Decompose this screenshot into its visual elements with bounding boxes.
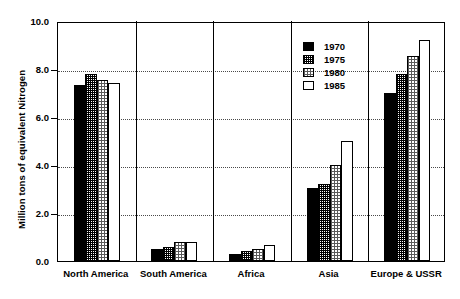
bar-africa-1985 [264, 245, 276, 261]
group-separator [213, 21, 214, 261]
y-tick-label: 0.0 [16, 257, 49, 267]
bar-asia-1975 [318, 184, 330, 261]
bar-europe-ussr-1970 [384, 93, 396, 261]
legend-label: 1980 [324, 68, 345, 78]
legend-swatch-1980 [303, 68, 314, 77]
y-tick-label: 8.0 [16, 65, 49, 75]
bar-south-america-1980 [174, 242, 186, 261]
bar-europe-ussr-1975 [396, 74, 408, 261]
y-tick-label: 2.0 [16, 209, 49, 219]
bar-asia-1985 [341, 141, 353, 261]
x-tick-label-africa: Africa [212, 268, 290, 279]
bar-asia-1980 [330, 165, 342, 261]
bar-africa-1980 [252, 249, 264, 261]
legend-item-1970: 1970 [303, 41, 345, 52]
gridline-8 [58, 71, 444, 72]
bar-north-america-1985 [108, 83, 120, 261]
x-tick-label-north-america: North America [57, 268, 135, 279]
x-tick-label-south-america: South America [135, 268, 213, 279]
y-tick-label: 10.0 [16, 17, 49, 27]
legend-item-1975: 1975 [303, 54, 345, 65]
legend-label: 1975 [324, 55, 345, 65]
legend-item-1985: 1985 [303, 80, 345, 91]
bar-africa-1970 [229, 254, 241, 261]
legend-label: 1970 [324, 42, 345, 52]
group-separator [368, 21, 369, 261]
bar-europe-ussr-1985 [419, 40, 431, 261]
bar-south-america-1985 [186, 242, 198, 261]
bar-south-america-1975 [163, 247, 175, 261]
bar-asia-1970 [307, 188, 319, 261]
group-separator [291, 21, 292, 261]
legend: 1970 1975 1980 1985 [303, 41, 345, 91]
group-separator [136, 21, 137, 261]
bar-south-america-1970 [151, 249, 163, 261]
bar-north-america-1975 [85, 74, 97, 261]
x-tick-label-asia: Asia [290, 268, 368, 279]
legend-swatch-1970 [303, 42, 314, 51]
legend-swatch-1975 [303, 55, 314, 64]
legend-swatch-1985 [303, 81, 314, 90]
x-tick-label-europe-ussr: Europe & USSR [367, 268, 445, 279]
bar-north-america-1970 [74, 85, 86, 261]
y-axis-title: Million tons of equivalent Nitrogen [16, 0, 32, 299]
bar-chart-figure: Million tons of equivalent Nitrogen 10.0… [0, 0, 460, 299]
bar-europe-ussr-1980 [407, 56, 419, 261]
bar-north-america-1980 [97, 80, 109, 261]
bar-africa-1975 [241, 251, 253, 261]
legend-label: 1985 [324, 81, 345, 91]
y-tick-label: 4.0 [16, 161, 49, 171]
legend-item-1980: 1980 [303, 67, 345, 78]
y-tick-label: 6.0 [16, 113, 49, 123]
plot-area [57, 22, 445, 262]
